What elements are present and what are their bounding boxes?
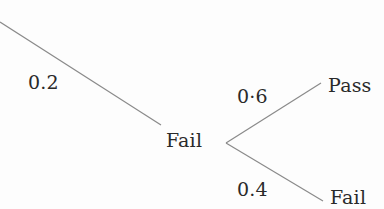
edge-label-0-6: 0·6 (237, 87, 268, 106)
probability-tree-diagram: 0.2 Fail 0·6 Pass 0.4 Fail (0, 0, 384, 209)
node-fail-end: Fail (330, 188, 366, 207)
edge-label-0-4: 0.4 (237, 180, 268, 199)
node-fail-mid: Fail (166, 131, 202, 150)
edge-label-0-2: 0.2 (28, 73, 59, 92)
tree-edges (0, 0, 384, 209)
node-pass: Pass (328, 76, 372, 95)
edge-root-to-fail (0, 22, 161, 125)
